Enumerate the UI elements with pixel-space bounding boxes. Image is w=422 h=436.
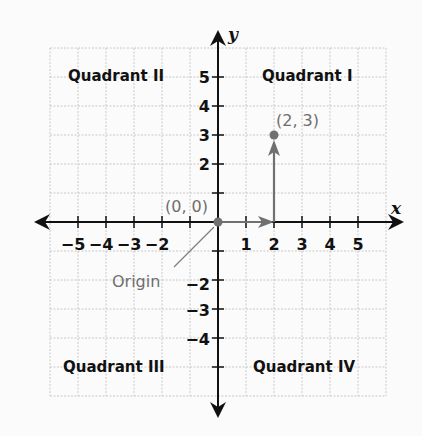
x-tick-label: 1: [240, 235, 251, 254]
x-tick-label: 3: [296, 235, 307, 254]
coordinate-plane: y x −5 −4 −3 −2 1 2 3 4 5 5 4 3 2 −2 −3 …: [0, 0, 422, 436]
y-tick-label: −2: [185, 275, 210, 294]
point-2-3: [270, 131, 279, 140]
origin-leader-line: [174, 227, 214, 267]
y-tick-label: 2: [199, 155, 210, 174]
y-tick-label: −4: [185, 330, 210, 349]
quadrant-3-label: Quadrant III: [63, 358, 165, 376]
y-tick-label: 4: [199, 97, 210, 116]
quadrant-1-label: Quadrant I: [262, 67, 352, 85]
point-coordinate-label: (2, 3): [276, 111, 319, 130]
y-tick-label: −3: [185, 301, 210, 320]
x-tick-label: 2: [268, 235, 279, 254]
origin-coordinate-label: (0, 0): [165, 197, 208, 216]
x-axis-label: x: [390, 198, 402, 218]
y-tick-label: 5: [199, 68, 210, 87]
x-tick-label: −2: [145, 235, 170, 254]
x-tick-label: −3: [117, 235, 142, 254]
quadrant-2-label: Quadrant II: [68, 67, 164, 85]
origin-point: [214, 218, 223, 227]
x-tick-label: 5: [352, 235, 363, 254]
quadrant-4-label: Quadrant IV: [253, 358, 355, 376]
x-tick-label: −4: [89, 235, 114, 254]
y-tick-label: 3: [199, 126, 210, 145]
x-tick-label: −5: [61, 235, 86, 254]
y-axis-label: y: [227, 24, 239, 44]
x-tick-label: 4: [324, 235, 335, 254]
origin-label: Origin: [112, 272, 160, 291]
